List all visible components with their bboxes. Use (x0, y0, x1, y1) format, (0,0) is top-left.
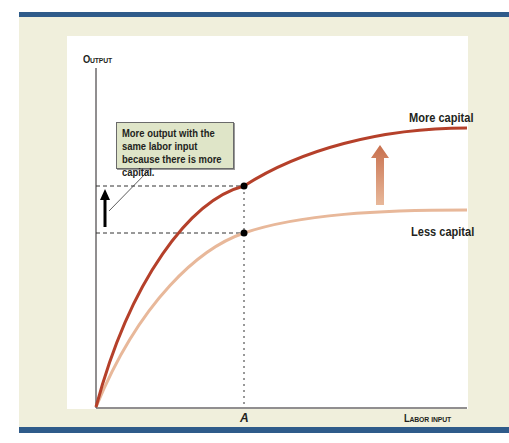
callout-box: More output with the same labor input be… (116, 122, 234, 169)
x-marker-a: A (240, 411, 249, 425)
less-capital-curve (96, 210, 467, 407)
x-axis-label: Labor input (404, 412, 451, 424)
production-function-chart (0, 0, 509, 443)
y-axis-label: Output (83, 53, 112, 65)
point-more-at-a (241, 183, 248, 190)
callout-text: More output with the same labor input be… (122, 127, 229, 179)
less-capital-label: Less capital (411, 224, 474, 239)
output-increase-arrowhead-icon (100, 189, 110, 200)
point-less-at-a (241, 230, 248, 237)
more-capital-label: More capital (409, 110, 473, 125)
shift-up-arrow-icon (371, 145, 389, 205)
